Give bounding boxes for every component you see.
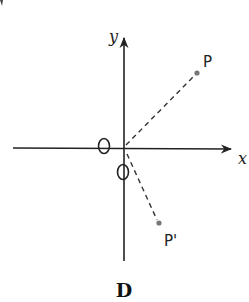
corner-artifact	[0, 0, 3, 6]
y-axis-label: y	[108, 27, 119, 46]
point-P-prime	[156, 220, 161, 225]
x-axis-label: x	[238, 149, 247, 168]
point-P-label: P	[203, 53, 212, 71]
dashed-line-to-P-prime	[127, 154, 157, 220]
x-axis	[13, 148, 231, 149]
figure-caption: D	[116, 279, 132, 301]
origin-mark-horizontal	[99, 139, 110, 154]
dashed-line-to-P	[126, 75, 195, 145]
coordinate-diagram: x y P P' D	[0, 0, 249, 302]
point-P-prime-label: P'	[164, 232, 177, 250]
point-P	[194, 70, 199, 75]
origin-mark-vertical	[118, 165, 129, 180]
